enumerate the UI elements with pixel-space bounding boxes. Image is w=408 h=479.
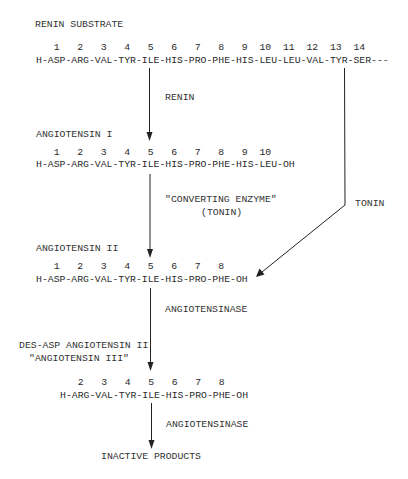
angiotensin-3-residue-numbers: 2 3 4 5 6 7 8 — [60, 377, 225, 388]
renin-substrate-sequence: H-ASP-ARG-VAL-TYR-ILE-HIS-PRO-PHE-HIS-LE… — [36, 55, 389, 66]
tonin-label: TONIN — [355, 198, 384, 209]
angiotensinase-arrow-1 — [148, 288, 154, 371]
inactive-products-label: INACTIVE PRODUCTS — [101, 451, 201, 462]
pathway-arrows — [0, 0, 408, 479]
converting-enzyme-arrow — [147, 174, 153, 258]
angiotensin-2-sequence: H-ASP-ARG-VAL-TYR-ILE-HIS-PRO-PHE-OH — [36, 274, 248, 285]
renin-arrow — [147, 68, 153, 141]
tonin-arrow — [256, 68, 345, 277]
angiotensin-3-title: DES-ASP ANGIOTENSIN II — [19, 340, 148, 351]
converting-enzyme-tonin-label: (TONIN) — [201, 207, 242, 218]
angiotensinase-arrow-2 — [149, 403, 155, 449]
renin-substrate-title: RENIN SUBSTRATE — [35, 19, 123, 30]
renin-substrate-residue-numbers: 1 2 3 4 5 6 7 8 9 10 11 12 13 14 — [36, 42, 365, 53]
renin-enzyme-label: RENIN — [165, 92, 194, 103]
angiotensin-3-subtitle: "ANGIOTENSIN III" — [29, 353, 129, 364]
angiotensin-2-residue-numbers: 1 2 3 4 5 6 7 8 — [36, 261, 224, 272]
angiotensin-1-title: ANGIOTENSIN I — [36, 129, 112, 140]
angiotensin-1-residue-numbers: 1 2 3 4 5 6 7 8 9 10 — [36, 147, 271, 158]
angiotensinase-label-1: ANGIOTENSINASE — [165, 304, 247, 315]
converting-enzyme-label: "CONVERTING ENZYME" — [165, 194, 277, 205]
angiotensin-2-title: ANGIOTENSIN II — [36, 243, 118, 254]
angiotensinase-label-2: ANGIOTENSINASE — [166, 419, 248, 430]
angiotensin-3-sequence: H-ARG-VAL-TYR-ILE-HIS-PRO-PHE-OH — [60, 390, 248, 401]
angiotensin-1-sequence: H-ASP-ARG-VAL-TYR-ILE-HIS-PRO-PHE-HIS-LE… — [36, 159, 295, 170]
